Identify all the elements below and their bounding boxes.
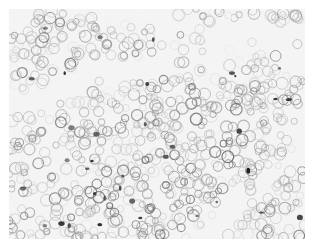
micrograph-image (9, 9, 305, 239)
cell-texture (9, 9, 305, 239)
